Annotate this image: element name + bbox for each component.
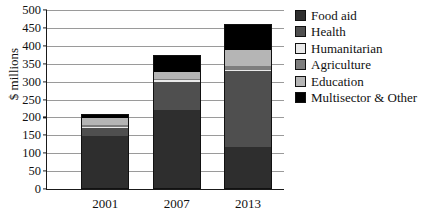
y-tick-label-500: 500 <box>22 4 41 17</box>
y-tick-label-300: 300 <box>22 75 41 88</box>
plot-area: 500450400350300250200150100500 200120072… <box>46 10 284 190</box>
y-tick-label-0: 0 <box>35 183 41 196</box>
legend-swatch-icon <box>295 92 306 103</box>
y-tick-mark-50 <box>43 171 47 172</box>
bar-segment-2007-food-aid[interactable] <box>154 110 200 188</box>
bar-2007[interactable] <box>153 55 201 189</box>
plot-frame: 500450400350300250200150100500 200120072… <box>46 10 284 190</box>
legend-item-agriculture[interactable]: Agriculture <box>295 58 417 72</box>
bar-segment-2007-multisector-other[interactable] <box>154 56 200 72</box>
legend-swatch-icon <box>295 43 306 54</box>
legend-label: Health <box>311 25 346 38</box>
legend-label: Humanitarian <box>311 42 382 55</box>
y-tick-label-50: 50 <box>29 165 42 178</box>
bar-segment-2013-food-aid[interactable] <box>225 147 271 188</box>
y-axis-title: $ millions <box>6 14 22 134</box>
legend-swatch-icon <box>295 10 306 21</box>
legend-label: Multisector & Other <box>311 91 417 104</box>
y-tick-mark-100 <box>43 153 47 154</box>
bar-2001[interactable] <box>81 114 129 189</box>
y-tick-label-200: 200 <box>22 111 41 124</box>
y-tick-label-350: 350 <box>22 57 41 70</box>
legend-label: Food aid <box>311 9 357 22</box>
legend-swatch-icon <box>295 59 306 70</box>
bar-segment-2001-food-aid[interactable] <box>82 136 128 188</box>
y-tick-label-250: 250 <box>22 93 41 106</box>
bar-2013[interactable] <box>224 24 272 189</box>
chart-page: $ millions 50045040035030025020015010050… <box>0 0 423 217</box>
y-tick-mark-350 <box>43 63 47 64</box>
y-tick-mark-500 <box>43 9 47 10</box>
bar-segment-2007-education[interactable] <box>154 72 200 79</box>
legend-item-education[interactable]: Education <box>295 74 417 88</box>
legend-item-food-aid[interactable]: Food aid <box>295 8 417 22</box>
y-tick-mark-200 <box>43 117 47 118</box>
x-tick-label-2013: 2013 <box>235 196 261 212</box>
legend-swatch-icon <box>295 26 306 37</box>
y-tick-mark-250 <box>43 99 47 100</box>
y-tick-label-400: 400 <box>22 40 41 53</box>
bar-segment-2013-health[interactable] <box>225 71 271 147</box>
x-tick-label-2007: 2007 <box>164 196 190 212</box>
legend-item-multisector-other[interactable]: Multisector & Other <box>295 91 417 105</box>
bar-segment-2007-health[interactable] <box>154 82 200 110</box>
bar-segment-2013-multisector-other[interactable] <box>225 25 271 50</box>
gridline-500 <box>47 10 284 11</box>
y-tick-mark-450 <box>43 27 47 28</box>
legend-label: Education <box>311 75 364 88</box>
bar-segment-2001-education[interactable] <box>82 118 128 125</box>
y-tick-mark-150 <box>43 135 47 136</box>
bar-segment-2001-health[interactable] <box>82 128 128 136</box>
y-tick-mark-300 <box>43 81 47 82</box>
bar-segment-2013-education[interactable] <box>225 50 271 66</box>
legend-item-health[interactable]: Health <box>295 25 417 39</box>
legend-swatch-icon <box>295 76 306 87</box>
chart-legend: Food aidHealthHumanitarianAgricultureEdu… <box>295 8 417 105</box>
legend-label: Agriculture <box>311 58 371 71</box>
legend-item-humanitarian[interactable]: Humanitarian <box>295 41 417 55</box>
y-tick-label-100: 100 <box>22 147 41 160</box>
y-tick-label-150: 150 <box>22 129 41 142</box>
y-tick-mark-400 <box>43 45 47 46</box>
x-tick-label-2001: 2001 <box>92 196 118 212</box>
y-tick-label-450: 450 <box>22 22 41 35</box>
y-tick-mark-0 <box>43 188 47 189</box>
